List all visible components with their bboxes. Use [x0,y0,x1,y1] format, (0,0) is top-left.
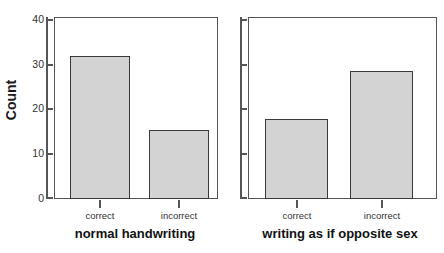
right-panel-tick-30 [240,64,247,66]
bar-normal-correct[interactable] [70,56,130,199]
y-axis-title: Count [3,65,19,135]
y-tick-label-20: 20 [20,103,44,114]
right-panel-tick-0 [240,197,247,199]
left-panel-tick-10 [46,153,53,155]
panel-opposite-sex [240,17,437,199]
left-panel-plot-area [54,17,218,199]
right-panel-plot-area [248,17,437,199]
left-panel-xtick-correct [99,200,101,208]
panel-normal-handwriting [46,17,218,199]
right-panel-tick-40 [240,19,247,21]
left-panel-xtick-incorrect [178,200,180,208]
right-panel-xtick-correct [296,200,298,208]
right-panel-xlabel-correct: correct [282,210,311,221]
right-panel-xlabel-incorrect: incorrect [364,210,400,221]
right-panel-tick-10 [240,153,247,155]
left-panel-tick-0 [46,197,53,199]
bar-opposite-correct[interactable] [265,119,328,199]
bar-normal-incorrect[interactable] [149,130,209,199]
right-panel-title: writing as if opposite sex [262,226,417,241]
y-tick-label-10: 10 [20,148,44,159]
y-tick-label-30: 30 [20,59,44,70]
bar-chart-figure: Count 40 30 20 10 0 correct incorrect no… [0,0,444,253]
left-panel-tick-30 [46,64,53,66]
y-tick-label-0: 0 [20,193,44,204]
left-panel-tick-20 [46,108,53,110]
right-panel-tick-20 [240,108,247,110]
left-panel-xlabel-incorrect: incorrect [161,210,197,221]
left-panel-title: normal handwriting [75,226,196,241]
left-panel-tick-40 [46,19,53,21]
y-tick-label-40: 40 [20,14,44,25]
bar-opposite-incorrect[interactable] [350,71,413,199]
left-panel-xlabel-correct: correct [85,210,114,221]
right-panel-xtick-incorrect [381,200,383,208]
y-axis-tick-labels: 40 30 20 10 0 [20,0,44,253]
